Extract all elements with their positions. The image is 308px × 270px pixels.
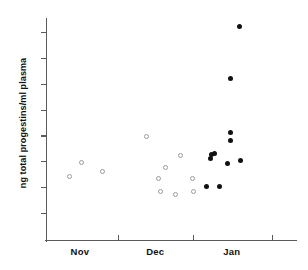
data-point-filled (217, 184, 222, 189)
data-point-filled (204, 184, 209, 189)
data-point-filled (238, 158, 243, 163)
data-point-open (158, 189, 163, 194)
data-point-filled (225, 161, 230, 166)
data-point-filled (228, 130, 233, 135)
data-point-open (191, 189, 196, 194)
data-point-filled (237, 24, 242, 29)
data-point-filled (228, 138, 233, 143)
data-point-open (173, 192, 178, 197)
data-point-open (100, 169, 105, 174)
data-point-open (178, 153, 183, 158)
data-point-open (144, 134, 149, 139)
scatter-plot-figure: ng total progestins/ml plasma 12345678 N… (0, 0, 308, 270)
data-point-filled (212, 151, 217, 156)
data-point-open (67, 174, 72, 179)
data-point-open (79, 160, 84, 165)
data-point-open (156, 176, 161, 181)
plot-area (0, 0, 308, 270)
data-point-open (190, 176, 195, 181)
data-point-filled (228, 76, 233, 81)
data-point-open (163, 165, 168, 170)
